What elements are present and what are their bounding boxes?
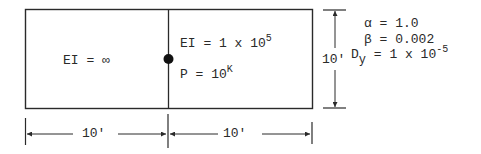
right-span-label: 10' xyxy=(223,127,246,141)
load-point-icon xyxy=(164,54,174,64)
left-span-label: 10' xyxy=(82,127,105,141)
frame-diagram: EI = ∞ EI = 1 x 105 P = 10K 10' 10' 10' … xyxy=(0,0,481,154)
height-label: 10' xyxy=(322,53,345,67)
load-label: P = 10K xyxy=(180,68,233,83)
left-member-ei-label: EI = ∞ xyxy=(63,54,110,68)
alpha-param: α = 1.0 xyxy=(364,17,419,31)
right-member-ei-label: EI = 1 x 105 xyxy=(180,37,272,52)
dy-param: Dy = 1 x 10-5 xyxy=(351,48,448,63)
beta-param: β = 0.002 xyxy=(364,33,434,47)
